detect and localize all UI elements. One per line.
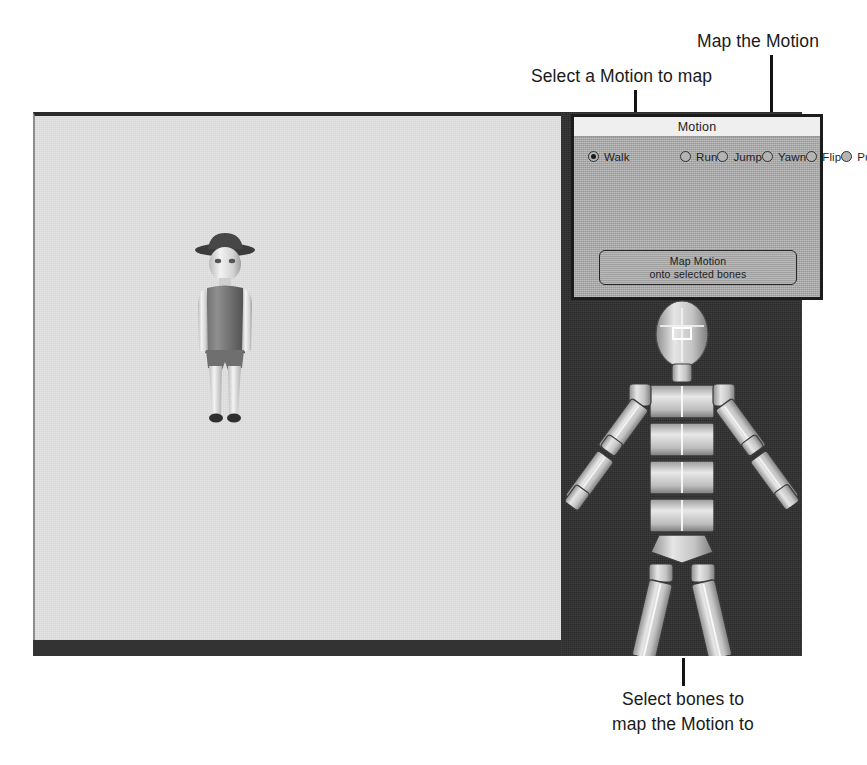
annotation-select-bones-line2: map the Motion to: [593, 714, 773, 735]
radio-icon-walk[interactable]: [588, 151, 599, 162]
motion-dialog-title: Motion: [678, 120, 717, 134]
bone-head[interactable]: [656, 301, 708, 367]
character-head: [209, 247, 241, 281]
viewport-bottom-bar: [33, 640, 561, 656]
bone-pelvis-spine[interactable]: [650, 499, 714, 532]
radio-option-flip[interactable]: Flip: [806, 146, 841, 167]
character-left-shoe: [209, 413, 223, 422]
radio-icon-flip[interactable]: [806, 151, 817, 162]
motion-dialog[interactable]: Motion Walk Run Jump: [571, 114, 823, 300]
map-motion-button[interactable]: Map Motion onto selected bones: [599, 250, 797, 285]
character-torso: [205, 286, 245, 357]
radio-option-punch[interactable]: Punch: [841, 146, 867, 167]
character-left-arm: [198, 289, 208, 352]
radio-icon-punch[interactable]: [841, 151, 852, 162]
radio-icon-run[interactable]: [680, 151, 691, 162]
bone-neck[interactable]: [672, 364, 692, 382]
radio-label-yawn: Yawn: [778, 151, 806, 163]
radio-icon-jump[interactable]: [717, 151, 728, 162]
character-right-shoe: [227, 413, 241, 422]
bone-spine-mid[interactable]: [650, 423, 714, 456]
annotation-select-bones-line1: Select bones to: [593, 689, 773, 710]
motion-dialog-body: Walk Run Jump Yawn: [574, 137, 820, 297]
radio-label-walk: Walk: [604, 151, 630, 163]
character-viewport[interactable]: [33, 112, 561, 640]
radio-option-yawn[interactable]: Yawn: [762, 146, 806, 167]
annotation-select-motion: Select a Motion to map: [531, 66, 712, 87]
radio-option-walk[interactable]: Walk: [588, 146, 680, 167]
character-left-leg: [209, 366, 222, 414]
character-right-arm: [242, 289, 252, 352]
bone-right-thigh[interactable]: [691, 579, 732, 656]
radio-label-jump: Jump: [733, 151, 762, 163]
radio-label-punch: Punch: [857, 151, 867, 163]
radio-option-jump[interactable]: Jump: [717, 146, 762, 167]
bone-spine-upper[interactable]: [650, 385, 714, 418]
radio-option-run[interactable]: Run: [680, 146, 717, 167]
bone-pelvis[interactable]: [651, 535, 713, 563]
screenshot-root: Select a Motion to map Map the Motion Se…: [0, 0, 867, 765]
motion-radio-group: Walk Run Jump Yawn: [588, 146, 812, 167]
viewport-noise-texture: [35, 116, 561, 640]
character-right-leg: [228, 366, 241, 414]
radio-label-flip: Flip: [822, 151, 841, 163]
application-window: Motion Walk Run Jump: [33, 112, 802, 656]
leader-line-select-bones: [682, 658, 685, 686]
bone-right-hip[interactable]: [691, 564, 715, 582]
map-motion-button-line1: Map Motion: [670, 255, 726, 267]
radio-label-run: Run: [696, 151, 717, 163]
humanoid-character-preview: [165, 228, 285, 438]
map-motion-button-line2: onto selected bones: [650, 268, 747, 280]
annotation-map-the-motion: Map the Motion: [697, 31, 819, 52]
bone-left-thigh[interactable]: [632, 579, 673, 656]
radio-icon-yawn[interactable]: [762, 151, 773, 162]
bone-spine-lower[interactable]: [650, 461, 714, 494]
character-hat-crown: [208, 233, 243, 249]
bone-left-hip[interactable]: [649, 564, 673, 582]
motion-dialog-titlebar: Motion: [574, 117, 820, 137]
